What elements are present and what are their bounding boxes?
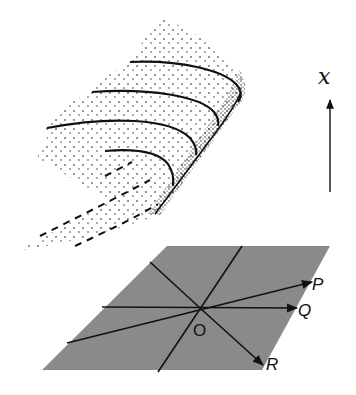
- wavefront-surface: [20, 18, 260, 250]
- diagram-canvas: [0, 0, 356, 395]
- origin-label: O: [193, 322, 206, 339]
- ray-label-p: P: [312, 276, 323, 293]
- ray-q: [102, 307, 297, 308]
- ray-label-r: R: [266, 356, 278, 373]
- x-axis-label: x: [318, 66, 330, 88]
- ray-label-q: Q: [298, 302, 311, 319]
- plane: [42, 246, 330, 372]
- ridge-shading: [140, 60, 260, 225]
